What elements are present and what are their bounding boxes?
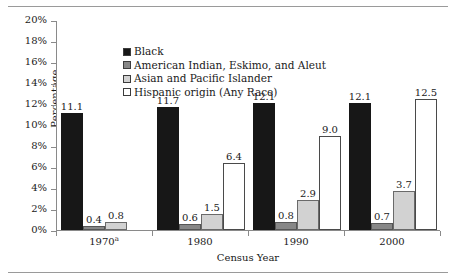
x-axis-tick-mark — [440, 231, 441, 236]
bar — [201, 214, 223, 230]
bar — [275, 222, 297, 230]
bar — [371, 223, 393, 230]
bar — [61, 113, 83, 230]
y-axis-tick-label: 4% — [31, 182, 47, 193]
y-axis-tick-label: 6% — [31, 161, 47, 172]
legend-swatch-icon — [123, 75, 131, 83]
bar-value-label: 12.1 — [343, 91, 377, 102]
y-axis-tick-label: 16% — [25, 56, 47, 67]
legend-label: Hispanic origin (Any Race) — [134, 86, 277, 100]
bar — [415, 99, 437, 230]
y-axis-tick-label: 20% — [25, 14, 47, 25]
legend-swatch-icon — [123, 48, 131, 56]
bar-chart: Percentage 0%2%4%6%8%10%12%14%16%18%20% … — [0, 0, 456, 280]
bar — [393, 191, 415, 230]
bar — [105, 222, 127, 230]
bar — [83, 226, 105, 230]
y-axis-tick-label: 2% — [31, 203, 47, 214]
x-axis-title: Census Year — [56, 252, 440, 263]
y-axis-tick-label: 8% — [31, 140, 47, 151]
bar-value-label: 12.5 — [409, 87, 443, 98]
bar — [319, 136, 341, 231]
legend-item: Hispanic origin (Any Race) — [123, 86, 326, 100]
y-axis-tick-label: 0% — [31, 224, 47, 235]
legend-label: Black — [134, 45, 164, 59]
x-axis-tick-label: 1990 — [248, 236, 344, 247]
bar-value-label: 9.0 — [313, 124, 347, 135]
bar-value-label: 0.8 — [99, 210, 133, 221]
y-axis-tick-label: 18% — [25, 35, 47, 46]
legend-item: Asian and Pacific Islander — [123, 72, 326, 86]
plot-area: 11.10.40.811.70.61.56.412.10.82.99.012.1… — [56, 21, 440, 231]
bar — [179, 224, 201, 230]
legend-label: American Indian, Eskimo, and Aleut — [134, 59, 326, 73]
y-axis-tick-label: 12% — [25, 98, 47, 109]
bar — [297, 200, 319, 230]
y-axis-tick-label: 10% — [25, 119, 47, 130]
x-axis-tick-label: 1980 — [152, 236, 248, 247]
legend-swatch-icon — [123, 88, 131, 96]
x-axis-tick-label: 1970a — [56, 236, 152, 247]
bar-value-label: 6.4 — [217, 151, 251, 162]
bar-value-label: 11.1 — [55, 101, 89, 112]
legend-item: American Indian, Eskimo, and Aleut — [123, 59, 326, 73]
x-axis-label-footnote-marker: a — [115, 235, 119, 243]
x-axis-tick-label: 2000 — [344, 236, 440, 247]
legend-swatch-icon — [123, 61, 131, 69]
y-axis-tick-label: 14% — [25, 77, 47, 88]
legend-item: Black — [123, 45, 326, 59]
chart-legend: BlackAmerican Indian, Eskimo, and AleutA… — [123, 45, 326, 99]
legend-label: Asian and Pacific Islander — [134, 72, 272, 86]
bar — [223, 163, 245, 230]
